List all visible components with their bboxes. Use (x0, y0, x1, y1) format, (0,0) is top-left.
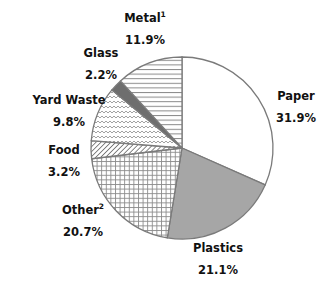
pie-chart: Paper31.9%Plastics21.1%Other220.7%Food3.… (0, 0, 332, 283)
slice-label: Other2 (62, 202, 104, 217)
slice-label: Food (48, 143, 79, 157)
slice-label: Paper (277, 89, 315, 103)
slice-label: Glass (84, 46, 119, 60)
slice-label: Metal1 (124, 10, 166, 25)
slice-value-label: 11.9% (125, 33, 165, 47)
footnote-marker: 2 (99, 202, 104, 211)
slice-value-label: 20.7% (63, 225, 103, 239)
slice-label: Yard Waste (31, 93, 105, 107)
slice-value-label: 2.2% (85, 68, 117, 82)
slice-value-label: 21.1% (198, 263, 238, 277)
slice-label: Plastics (193, 241, 243, 255)
slice-value-label: 31.9% (276, 111, 316, 125)
slice-value-label: 9.8% (53, 115, 85, 129)
slice-value-label: 3.2% (48, 165, 80, 179)
footnote-marker: 1 (161, 10, 166, 19)
pie-slice-other (92, 148, 182, 238)
